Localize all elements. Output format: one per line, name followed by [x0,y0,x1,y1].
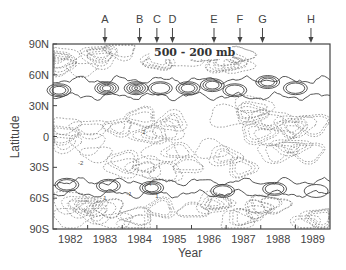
negative-contour [245,124,276,142]
event-marker-d: D [168,13,176,43]
positive-band-contour [53,189,330,198]
arrow-down-icon [102,37,107,43]
negative-contour [275,142,306,153]
positive-core-contour [132,86,140,91]
negative-contour [116,208,151,225]
y-tick-label: 60S [29,192,49,204]
negative-contour [209,146,244,166]
event-marker-label: B [136,13,143,25]
event-marker-label: D [168,13,176,25]
positive-core-contour [200,79,224,92]
positive-core-contour [96,179,120,192]
event-marker-e: E [210,13,217,43]
positive-core-contour [140,181,164,194]
x-tick-label: 1983 [93,233,117,245]
positive-core-contour [52,86,66,94]
positive-core-contour [151,83,170,93]
negative-contour [156,109,187,131]
negative-contour [141,140,178,162]
negative-contour [54,134,82,154]
y-tick-label: 30S [29,161,49,173]
event-markers: ABCDEFGH [101,13,315,43]
contour-value-label: -2 [78,160,84,166]
positive-core-contour [223,84,247,97]
positive-core-contour [55,178,79,191]
negative-contour [266,145,289,162]
negative-contour [195,138,229,158]
contour-chart: ABCDEFGH 90N60N30N030S60S90S 19821983198… [0,0,346,270]
negative-contour [54,118,81,135]
positive-core-contour [148,82,172,95]
positive-core-contour [145,184,159,192]
x-tick-label: 1989 [300,233,324,245]
event-marker-label: F [237,13,244,25]
negative-contour [232,158,255,177]
y-tick-label: 30N [29,100,49,112]
negative-contour [306,209,329,228]
negative-contour [218,151,233,162]
negative-contour [92,213,133,228]
positive-core-contour [181,84,195,92]
negative-contour [254,129,295,146]
negative-contour [129,112,152,122]
negative-contour [173,160,204,170]
positive-core-contour [57,180,76,190]
negative-contour [205,200,220,206]
positive-core-contour [205,81,219,89]
negative-contour [261,197,291,214]
negative-contour [133,128,164,143]
arrow-down-icon [170,37,175,43]
event-marker-h: H [307,13,315,43]
x-tick-label: 1984 [127,233,151,245]
positive-contours [47,76,330,199]
negative-contour [61,196,97,218]
event-marker-c: C [153,13,161,43]
arrow-down-icon [308,37,313,43]
negative-contour [66,63,98,77]
negative-contour [80,147,113,163]
positive-core-contour [124,82,148,95]
negative-contour [247,200,271,219]
negative-contour [144,197,175,218]
arrow-down-icon [260,37,265,43]
x-tick-label: 1985 [162,233,186,245]
negative-contour [309,212,329,225]
x-axis: 19821983198419851986198719881989 [58,225,325,245]
negative-contour [235,161,252,174]
positive-core-contour [47,84,71,97]
y-tick-label: 60N [29,69,49,81]
negative-contour [110,123,125,134]
event-marker-label: A [101,13,109,25]
negative-contour [290,215,321,228]
x-tick-label: 1988 [266,233,290,245]
contour-value-label: -1 [127,191,133,197]
event-marker-f: F [237,13,244,43]
event-marker-label: H [307,13,315,25]
negative-contour [210,104,250,127]
arrow-down-icon [137,37,142,43]
negative-contour [260,198,292,213]
arrow-down-icon [154,37,159,43]
negative-contour [150,200,171,215]
event-marker-g: G [258,13,267,43]
x-tick-label: 1982 [58,233,82,245]
negative-contour [176,204,209,216]
positive-core-contour [265,184,284,194]
event-marker-b: B [136,13,143,43]
negative-contour [131,163,155,172]
negative-contour [104,45,135,61]
negative-contour [294,218,318,228]
negative-contour [54,53,76,75]
x-tick-label: 1986 [197,233,221,245]
positive-band-contour [53,177,330,186]
negative-contour [292,145,324,162]
x-axis-title: Year [178,246,202,260]
y-tick-label: 90S [29,223,49,235]
arrow-down-icon [212,37,217,43]
contour-value-label: 1 [155,193,159,199]
positive-core-contour [102,86,110,91]
positive-core-contour [286,83,305,93]
y-axis-title: Latitude [8,115,22,158]
contour-value-label: -2 [140,129,146,135]
y-tick-label: 0 [43,131,49,143]
